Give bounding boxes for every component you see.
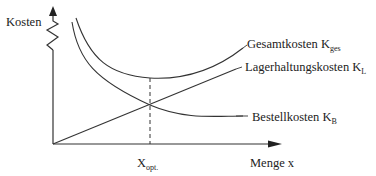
curve-lagerhaltungskosten — [53, 69, 236, 144]
leader-lagerhaltungskosten — [236, 67, 242, 69]
label-gesamtkosten-sub: ges — [330, 44, 341, 53]
y-axis-arrow-icon — [49, 6, 57, 16]
x-opt-sub: opt. — [146, 163, 158, 172]
label-lagerhaltungskosten-sub: L — [361, 67, 366, 76]
cost-diagram — [0, 0, 376, 176]
label-bestellkosten-text: Bestellkosten K — [252, 110, 332, 124]
curve-gesamtkosten — [76, 18, 243, 78]
x-opt-main: X — [137, 156, 146, 170]
curve-bestellkosten — [72, 22, 243, 116]
x-axis-label: Menge x — [250, 157, 294, 170]
x-axis-arrow-icon — [268, 141, 282, 148]
label-lagerhaltungskosten: Lagerhaltungskosten KL — [245, 61, 366, 76]
y-axis-label: Kosten — [6, 16, 41, 29]
label-lagerhaltungskosten-text: Lagerhaltungskosten K — [245, 60, 361, 74]
y-axis — [47, 14, 58, 144]
x-opt-marker: Xopt. — [137, 157, 158, 172]
axis-break-zigzag — [47, 14, 58, 50]
label-bestellkosten: Bestellkosten KB — [252, 111, 337, 126]
label-gesamtkosten-text: Gesamtkosten K — [247, 37, 330, 51]
label-bestellkosten-sub: B — [332, 117, 337, 126]
label-gesamtkosten: Gesamtkosten Kges — [247, 38, 341, 53]
